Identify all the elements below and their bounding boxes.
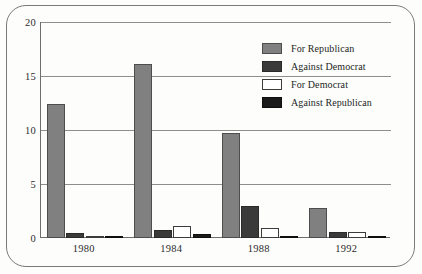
bar [86,236,104,238]
bar [193,234,211,238]
legend-label: For Democrat [291,79,348,90]
bar [47,104,65,238]
legend-label: For Republican [291,43,354,54]
bar [241,206,259,238]
legend-swatch-icon [262,79,282,90]
y-tick-label: 5 [31,179,36,190]
legend-label: Against Republican [291,97,372,108]
y-tick-label: 20 [25,17,36,28]
bar [222,133,240,238]
x-tick-label-1980: 1980 [73,243,95,254]
x-tick-label-1988: 1988 [248,243,270,254]
legend-swatch-icon [262,97,282,108]
legend-item-against-republican: Against Republican [262,94,392,110]
legend-item-for-democrat: For Democrat [262,76,392,92]
bar [154,230,172,238]
chart-figure: 05101520 1980198419881992 For Republican… [0,0,422,274]
bar [329,232,347,238]
y-tick-label: 10 [25,125,36,136]
bar [368,236,386,238]
legend-swatch-icon [262,61,282,72]
bar [66,233,84,238]
bar [261,228,279,238]
x-axis-ticks: 1980198419881992 [40,240,390,260]
legend-label: Against Democrat [291,61,366,72]
legend-item-for-republican: For Republican [262,40,392,56]
y-tick-label: 0 [31,233,36,244]
legend-item-against-democrat: Against Democrat [262,58,392,74]
legend-swatch-icon [262,43,282,54]
bar [309,208,327,238]
bar [173,226,191,238]
bar [134,64,152,238]
x-tick-label-1984: 1984 [160,243,182,254]
bar [105,236,123,238]
chart-legend: For RepublicanAgainst DemocratFor Democr… [262,40,392,112]
bar [348,232,366,238]
bar [280,236,298,238]
x-tick-label-1992: 1992 [335,243,357,254]
y-tick-label: 15 [25,71,36,82]
